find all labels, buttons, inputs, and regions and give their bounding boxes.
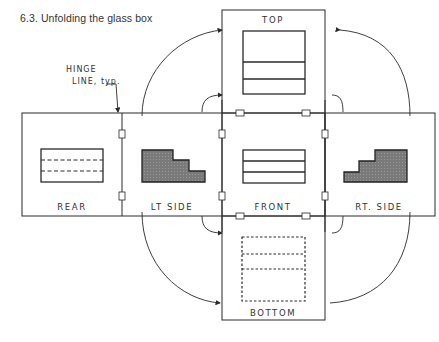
label-front: FRONT bbox=[254, 202, 291, 212]
front-view bbox=[243, 150, 305, 183]
rear-view bbox=[41, 149, 103, 182]
vertical-band bbox=[222, 10, 325, 320]
label-rear: REAR bbox=[57, 202, 86, 212]
label-top: TOP bbox=[261, 15, 284, 25]
hinge-note-line1: HINGE bbox=[66, 65, 97, 74]
hinge-note-line2: LINE, typ. bbox=[72, 77, 120, 86]
label-left-side: LT SIDE bbox=[151, 202, 193, 212]
top-view bbox=[243, 31, 305, 94]
left-side-view bbox=[142, 150, 205, 182]
label-right-side: RT. SIDE bbox=[355, 202, 403, 212]
glass-box-diagram: HINGE LINE, typ. TOP REAR LT SIDE FRONT … bbox=[0, 0, 439, 342]
label-bottom: BOTTOM bbox=[250, 308, 296, 318]
bottom-view bbox=[242, 237, 305, 301]
right-side-view bbox=[344, 150, 407, 182]
